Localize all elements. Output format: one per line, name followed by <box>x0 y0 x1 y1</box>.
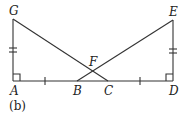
label-F: F <box>88 55 98 69</box>
figure-caption: (b) <box>9 99 26 113</box>
label-D: D <box>168 84 179 98</box>
label-B: B <box>72 84 82 98</box>
segment-GC <box>13 19 108 81</box>
right-angle-mark-A <box>13 74 20 81</box>
segment-BE <box>77 20 173 81</box>
label-C: C <box>104 84 113 98</box>
label-A: A <box>9 84 19 98</box>
geometry-figure: G E F A B C D (b) <box>0 0 185 118</box>
label-G: G <box>9 4 19 18</box>
right-angle-mark-D <box>166 74 173 81</box>
label-E: E <box>168 5 178 19</box>
